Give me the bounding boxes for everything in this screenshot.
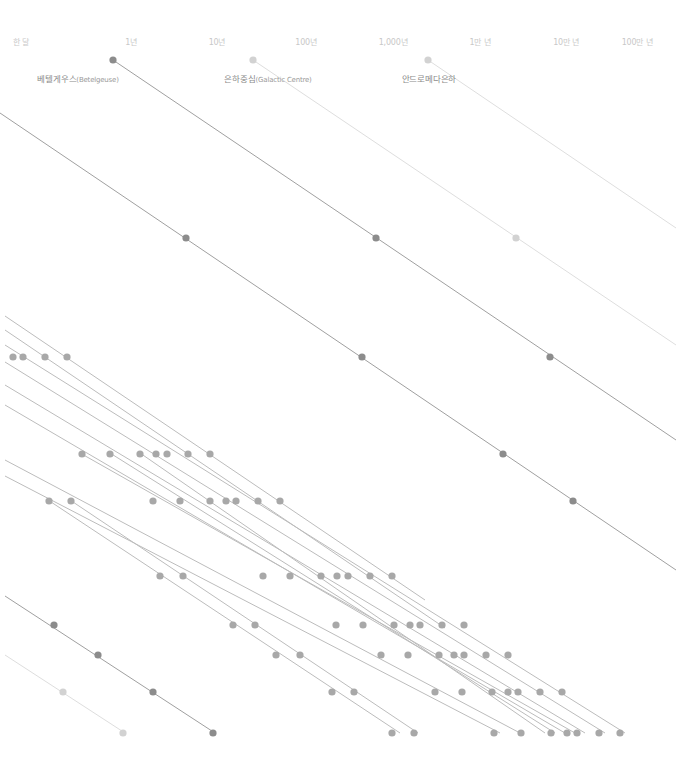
event-dot — [94, 651, 101, 658]
event-dot — [63, 353, 70, 360]
event-dot — [136, 450, 143, 457]
object-label-en: (Galactic Centre) — [256, 76, 312, 84]
event-dot — [388, 729, 395, 736]
event-dot — [390, 621, 397, 628]
object-label: 베텔게우스(Betelgeuse) — [37, 72, 118, 84]
event-dot — [514, 688, 521, 695]
event-dot — [366, 572, 373, 579]
axis-tick-label: 10만 년 — [553, 36, 579, 47]
light-path-line — [5, 345, 625, 733]
axis-tick-label: 100만 년 — [622, 36, 653, 47]
event-dot — [179, 572, 186, 579]
event-dot — [547, 729, 554, 736]
event-dot — [406, 621, 413, 628]
event-dot — [546, 353, 553, 360]
event-dot — [251, 621, 258, 628]
light-path-line — [5, 596, 215, 733]
event-dot — [536, 688, 543, 695]
event-dot — [332, 621, 339, 628]
event-dot — [358, 353, 365, 360]
event-dot — [458, 688, 465, 695]
event-dot — [558, 688, 565, 695]
event-dot — [517, 729, 524, 736]
axis-tick-label: 1년 — [125, 36, 137, 47]
light-path-line — [5, 385, 585, 733]
light-path-line — [253, 60, 676, 345]
event-dot — [41, 353, 48, 360]
event-dot — [482, 651, 489, 658]
axis-tick-label: 한 달 — [13, 36, 29, 47]
event-dot — [359, 621, 366, 628]
event-dot — [344, 572, 351, 579]
axis-tick-label: 10년 — [209, 36, 226, 47]
event-dot — [50, 621, 57, 628]
object-label-ko: 안드로메다은하 — [402, 74, 457, 84]
event-dot — [229, 621, 236, 628]
event-dot — [460, 621, 467, 628]
event-dot — [328, 688, 335, 695]
event-dot — [460, 651, 467, 658]
event-dot — [59, 688, 66, 695]
event-dot — [404, 651, 411, 658]
event-dot — [616, 729, 623, 736]
event-dot — [372, 234, 379, 241]
event-dot — [9, 353, 16, 360]
object-label-ko: 베텔게우스 — [37, 74, 76, 84]
light-path-line — [5, 330, 445, 628]
event-dot — [67, 497, 74, 504]
event-dot — [317, 572, 324, 579]
axis-tick-label: 100년 — [295, 36, 316, 47]
event-dot — [499, 450, 506, 457]
event-dot — [272, 651, 279, 658]
event-dot — [182, 234, 189, 241]
event-dot — [296, 651, 303, 658]
event-dot — [488, 688, 495, 695]
diagram-canvas — [0, 0, 676, 764]
event-dot — [573, 729, 580, 736]
event-dot — [119, 729, 126, 736]
event-dot — [152, 450, 159, 457]
event-dot — [350, 688, 357, 695]
event-dot — [222, 497, 229, 504]
event-dot — [45, 497, 52, 504]
axis-tick-label: 1만 년 — [470, 36, 491, 47]
event-dot — [438, 621, 445, 628]
event-dot — [490, 729, 497, 736]
event-dot — [333, 572, 340, 579]
event-dot — [276, 497, 283, 504]
event-dot — [416, 621, 423, 628]
object-label: 안드로메다은하 — [402, 72, 457, 84]
light-path-line — [140, 453, 545, 733]
event-dot — [149, 688, 156, 695]
event-dot — [254, 497, 261, 504]
event-dot — [450, 651, 457, 658]
event-dot — [424, 56, 431, 63]
event-dot — [206, 450, 213, 457]
event-dot — [410, 729, 417, 736]
light-path-line — [113, 60, 676, 440]
event-dot — [435, 651, 442, 658]
event-dot — [163, 450, 170, 457]
object-label-ko: 은하중심 — [224, 74, 255, 84]
event-dot — [431, 688, 438, 695]
event-dot — [78, 450, 85, 457]
event-dot — [184, 450, 191, 457]
event-dot — [504, 688, 511, 695]
light-path-line — [5, 362, 605, 733]
object-label: 은하중심(Galactic Centre) — [224, 72, 311, 84]
event-dot — [106, 450, 113, 457]
object-label-en: (Betelgeuse) — [76, 76, 118, 84]
light-travel-diagram: 한 달1년10년100년1,000년1만 년10만 년100만 년 베텔게우스(… — [0, 0, 676, 764]
event-dot — [286, 572, 293, 579]
axis-tick-label: 1,000년 — [379, 36, 408, 47]
event-dot — [19, 353, 26, 360]
event-dot — [388, 572, 395, 579]
event-dot — [249, 56, 256, 63]
event-dot — [149, 497, 156, 504]
event-dot — [206, 497, 213, 504]
event-dot — [377, 651, 384, 658]
event-dot — [512, 234, 519, 241]
event-dot — [563, 729, 570, 736]
event-dot — [156, 572, 163, 579]
event-dot — [595, 729, 602, 736]
